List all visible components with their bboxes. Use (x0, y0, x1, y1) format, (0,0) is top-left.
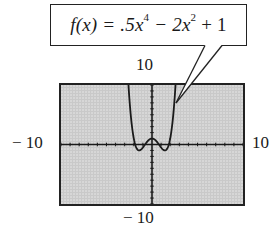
equation-exponent-4: 4 (144, 11, 150, 23)
ymin-label: − 10 (123, 208, 154, 228)
axes (61, 85, 243, 204)
equation-middle: − 2x (149, 14, 190, 35)
function-equation: f(x) = .5x4 − 2x2 + 1 (70, 14, 227, 36)
graph-screen (59, 83, 245, 206)
equation-exponent-2: 2 (191, 11, 197, 23)
function-callout: f(x) = .5x4 − 2x2 + 1 (50, 4, 247, 46)
equation-prefix: f(x) = .5x (70, 14, 143, 35)
xmin-label: − 10 (12, 133, 43, 153)
plot-canvas (61, 85, 243, 204)
xmax-label: 10 (252, 133, 269, 153)
ymax-label: 10 (136, 55, 153, 75)
equation-suffix: + 1 (196, 14, 227, 35)
